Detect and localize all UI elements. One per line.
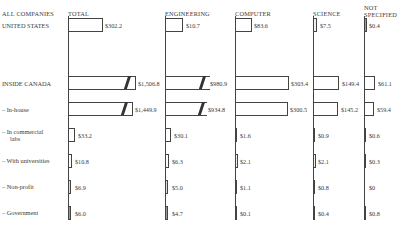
bar-computer-in-house xyxy=(235,102,288,116)
value-engineering-commercial-labs: $30.1 xyxy=(174,132,188,139)
bar-total-commercial-labs xyxy=(68,128,75,142)
header-science: SCIENCE xyxy=(313,10,341,17)
bar-engineering-non-profit xyxy=(165,180,168,194)
value-science-universities: $2.1 xyxy=(318,158,329,165)
value-engineering-government: $4.7 xyxy=(172,210,183,217)
value-engineering-in-house: $934.8 xyxy=(208,106,225,113)
bar-not-specified-commercial-labs xyxy=(364,128,366,142)
value-science-in-house: $145.2 xyxy=(341,106,358,113)
bar-science-inside-canada xyxy=(313,76,339,90)
value-not-specified-non-profit: $0 xyxy=(369,184,375,191)
bar-total-united-states xyxy=(68,18,103,32)
bar-computer-non-profit xyxy=(235,180,237,194)
value-engineering-inside-canada: $980.9 xyxy=(210,80,227,87)
value-computer-inside-canada: $303.4 xyxy=(291,80,308,87)
bar-total-non-profit xyxy=(68,180,71,194)
value-not-specified-in-house: $59.4 xyxy=(377,106,391,113)
value-computer-government: $0.1 xyxy=(240,210,251,217)
bar-total-universities xyxy=(68,154,72,168)
axis-not-specified xyxy=(364,16,365,218)
value-total-commercial-labs: $33.2 xyxy=(78,132,92,139)
bar-computer-inside-canada xyxy=(235,76,289,90)
row-label-with-universities: – With universities xyxy=(2,157,50,164)
row-label-in-house: – In-house xyxy=(2,106,29,113)
value-not-specified-inside-canada: $61.1 xyxy=(378,80,392,87)
bar-science-government xyxy=(313,206,315,220)
value-total-government: $6.0 xyxy=(75,210,86,217)
value-computer-universities: $2.1 xyxy=(240,158,251,165)
bar-not-specified-united-states xyxy=(364,18,367,32)
value-science-inside-canada: $149.4 xyxy=(342,80,359,87)
value-total-inside-canada: $1,506.8 xyxy=(138,80,160,87)
value-science-commercial-labs: $0.9 xyxy=(318,132,329,139)
bar-total-government xyxy=(68,206,71,220)
bar-not-specified-in-house xyxy=(364,102,374,116)
value-computer-commercial-labs: $1.6 xyxy=(240,132,251,139)
bar-not-specified-universities xyxy=(364,154,366,168)
row-label-government: – Government xyxy=(2,209,38,216)
value-computer-in-house: $300.5 xyxy=(290,106,307,113)
value-computer-non-profit: $1.1 xyxy=(240,184,251,191)
bar-science-united-states xyxy=(313,18,317,32)
bar-science-commercial-labs xyxy=(313,128,315,142)
bar-computer-united-states xyxy=(235,18,252,32)
header-not-specified-line2: SPECIFIED xyxy=(364,11,397,18)
bar-computer-universities xyxy=(235,154,238,168)
header-not-specified-line1: NOT xyxy=(364,4,378,11)
bar-engineering-universities xyxy=(165,154,169,168)
bar-science-universities xyxy=(313,154,316,168)
bar-engineering-commercial-labs xyxy=(165,128,171,142)
value-not-specified-united-states: $0.4 xyxy=(369,22,380,29)
row-label-non-profit: – Non-profit xyxy=(2,183,34,190)
value-engineering-united-states: $10.7 xyxy=(186,22,200,29)
bar-computer-government xyxy=(235,206,237,220)
value-total-universities: $10.8 xyxy=(75,158,89,165)
bar-not-specified-government xyxy=(364,206,366,220)
value-science-non-profit: $0.8 xyxy=(318,184,329,191)
bar-not-specified-inside-canada xyxy=(364,76,375,90)
value-engineering-universities: $6.3 xyxy=(172,158,183,165)
value-science-united-states: $7.5 xyxy=(320,22,331,29)
row-label-inside-canada: INSIDE CANADA xyxy=(2,80,51,87)
value-not-specified-commercial-labs: $0.6 xyxy=(369,132,380,139)
header-all-companies: ALL COMPANIES xyxy=(2,10,54,17)
value-not-specified-government: $0.8 xyxy=(369,210,380,217)
bar-science-in-house xyxy=(313,102,338,116)
header-engineering: ENGINEERING xyxy=(165,10,210,17)
bar-computer-commercial-labs xyxy=(235,128,237,142)
value-total-non-profit: $6.9 xyxy=(75,184,86,191)
bar-engineering-government xyxy=(165,206,168,220)
bar-science-non-profit xyxy=(313,180,315,194)
value-engineering-non-profit: $5.0 xyxy=(172,184,183,191)
row-label-united-states: UNITED STATES xyxy=(2,22,49,29)
row-label-in-commercial-labs-line2: labs xyxy=(10,135,20,142)
header-computer: COMPUTER xyxy=(235,10,271,17)
value-not-specified-universities: $0.3 xyxy=(369,158,380,165)
bar-engineering-united-states xyxy=(165,18,183,32)
header-total: TOTAL xyxy=(68,10,89,17)
value-computer-united-states: $83.6 xyxy=(254,22,268,29)
value-total-united-states: $302.2 xyxy=(105,22,122,29)
value-total-in-house: $1,449.9 xyxy=(135,106,157,113)
value-science-government: $0.4 xyxy=(318,210,329,217)
row-label-in-commercial-labs: – In commercial xyxy=(2,128,43,135)
